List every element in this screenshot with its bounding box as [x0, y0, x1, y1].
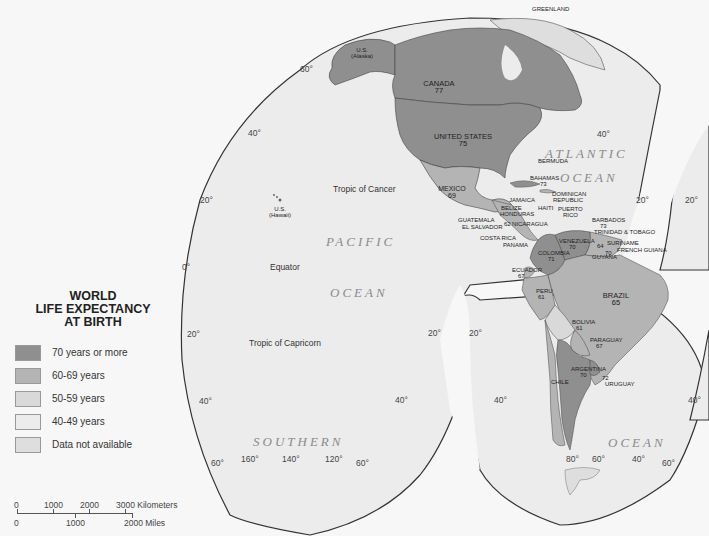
label-nicaragua: NICARAGUA [512, 221, 548, 227]
southern-label-1: SOUTHERN [253, 434, 343, 449]
legend: WORLD LIFE EXPECTANCY AT BIRTH 70 years … [8, 290, 178, 456]
legend-label: 40-49 years [52, 416, 105, 427]
degree-label: 20° [200, 195, 213, 205]
label-bermuda: BERMUDA [538, 158, 568, 164]
value-united-states: 75 [459, 139, 467, 148]
label-dominican-republic: REPUBLIC [553, 197, 584, 203]
label-barbados: BARBADOS [592, 217, 625, 223]
value-paraguay: 67 [596, 343, 603, 349]
label-guyana: GUYANA [592, 254, 617, 260]
degree-label: 40° [395, 395, 408, 405]
tropic-of-capricorn-label: Tropic of Capricorn [249, 338, 321, 348]
label-venezuela: VENEZUELA [559, 238, 595, 244]
legend-label: 60-69 years [52, 370, 105, 381]
degree-label: 60° [662, 458, 675, 468]
atlantic-label-2: OCEAN [560, 170, 618, 185]
value-ecuador: 67 [518, 273, 525, 279]
label-haiti: HAITI [538, 205, 554, 211]
degree-label: 20° [469, 328, 482, 338]
degree-label: 40° [494, 395, 507, 405]
degree-label: 20° [428, 328, 441, 338]
value-mexico: 69 [448, 192, 456, 199]
label-suriname: SURINAME [607, 240, 639, 246]
label-honduras: HONDURAS [500, 211, 534, 217]
label-costa-rica: COSTA RICA [480, 235, 516, 241]
value-bolivia: 61 [576, 325, 583, 331]
label-alaska: (Alaska) [351, 53, 373, 59]
label-uruguay: URUGUAY [605, 381, 635, 387]
label-mexico: MEXICO [438, 185, 466, 192]
legend-item-no-data: Data not available [8, 433, 178, 456]
degree-label: 60° [592, 454, 605, 464]
label-french-guiana: FRENCH GUIANA [617, 247, 667, 253]
label-guatemala: GUATEMALA [458, 217, 495, 223]
pacific-label-2: OCEAN [330, 285, 388, 300]
title-line: AT BIRTH [8, 316, 178, 329]
value-canada: 77 [435, 86, 443, 95]
label-paraguay: PARAGUAY [590, 337, 622, 343]
label-ecuador: ECUADOR [512, 267, 543, 273]
legend-swatch [15, 345, 41, 361]
legend-label: Data not available [52, 439, 132, 450]
equator-label: Equator [270, 262, 300, 272]
value-guyana: 64 [597, 243, 604, 249]
label-chile: CHILE [551, 379, 569, 385]
legend-swatch [15, 391, 41, 407]
degree-label: 40° [199, 396, 212, 406]
value-peru: 61 [538, 294, 545, 300]
label-hawaii: (Hawaii) [269, 212, 291, 218]
pacific-label-1: PACIFIC [325, 234, 395, 249]
degree-label: 60° [300, 64, 313, 74]
label-trinidad-tobago: TRINIDAD & TOBAGO [594, 229, 655, 235]
label-el-salvador: EL SALVADOR [462, 224, 503, 230]
degree-label: 0° [182, 262, 190, 272]
southern-label-2: OCEAN [608, 435, 666, 450]
degree-label: 160° [241, 454, 259, 464]
scale-mile-tick: 2000 Miles [124, 518, 165, 528]
scale-mile-tick: 0 [14, 518, 19, 528]
degree-label: 20° [187, 329, 200, 339]
legend-swatch [15, 368, 41, 384]
legend-swatch [15, 437, 41, 453]
value-venezuela: 70 [569, 244, 576, 250]
tropic-of-cancer-label: Tropic of Cancer [333, 184, 396, 194]
degree-label: 60° [211, 458, 224, 468]
value-nicaragua: 62 [504, 221, 511, 227]
degree-label: 20° [636, 195, 649, 205]
legend-swatch [15, 414, 41, 430]
degree-label: 80° [566, 454, 579, 464]
degree-label: 40° [248, 128, 261, 138]
label-puerto-rico: RICO [563, 212, 578, 218]
degree-label: 40° [597, 129, 610, 139]
degree-label: 20° [685, 195, 698, 205]
value-argentina: 70 [580, 372, 587, 378]
legend-label: 70 years or more [52, 347, 128, 358]
legend-item-60-69: 60-69 years [8, 364, 178, 387]
legend-item-40-49: 40-49 years [8, 410, 178, 433]
degree-label: 40° [632, 454, 645, 464]
value-brazil: 65 [612, 298, 620, 307]
label-panama: PANAMA [503, 242, 528, 248]
label-argentina: ARGENTINA [571, 366, 606, 372]
label-greenland: GREENLAND [532, 6, 570, 12]
degree-label: 140° [282, 454, 300, 464]
label-jamaica: JAMAICA [509, 197, 535, 203]
value-colombia: 71 [548, 256, 555, 262]
degree-label: 60° [356, 458, 369, 468]
degree-label: 120° [325, 454, 343, 464]
value-bahamas: 73 [540, 181, 547, 187]
map-title: WORLD LIFE EXPECTANCY AT BIRTH [8, 290, 178, 329]
degree-label: 40° [688, 395, 701, 405]
scale-mile-tick: 1000 [66, 518, 85, 528]
legend-label: 50-59 years [52, 393, 105, 404]
scale-bar: 0 1000 2000 3000 Kilometers 0 1000 2000 … [0, 500, 260, 536]
legend-item-70-plus: 70 years or more [8, 341, 178, 364]
legend-item-50-59: 50-59 years [8, 387, 178, 410]
